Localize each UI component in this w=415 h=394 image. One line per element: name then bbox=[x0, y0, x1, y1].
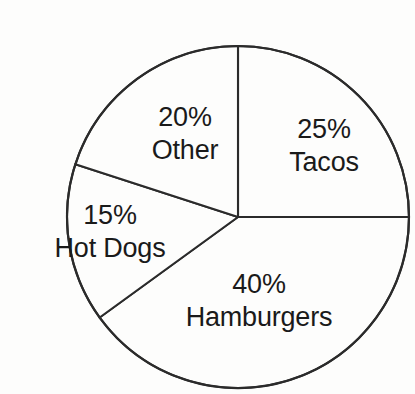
pie-chart-figure: 25% Tacos 40% Hamburgers 15% Hot Dogs 20… bbox=[40, 16, 415, 394]
pie-chart-svg: 25% Tacos 40% Hamburgers 15% Hot Dogs 20… bbox=[40, 16, 415, 394]
slice-label-tacos-percent: 25% bbox=[297, 114, 351, 144]
slice-label-tacos-name: Tacos bbox=[289, 147, 359, 177]
slice-label-hamburgers-percent: 40% bbox=[232, 269, 286, 299]
slice-label-other-percent: 20% bbox=[158, 102, 212, 132]
slice-label-other-name: Other bbox=[152, 135, 219, 165]
slice-label-hamburgers-name: Hamburgers bbox=[186, 302, 333, 332]
slice-label-hot-dogs-percent: 15% bbox=[83, 200, 137, 230]
slice-label-hot-dogs-name: Hot Dogs bbox=[55, 233, 166, 263]
